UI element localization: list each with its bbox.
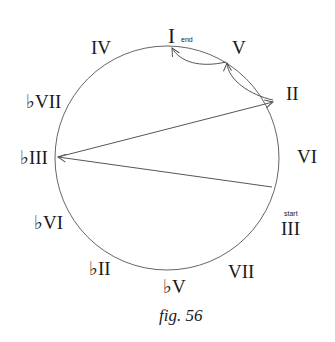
label-flatII: ♭II [89, 259, 111, 278]
label-flatVII: ♭VII [26, 92, 61, 111]
arrow-III-to-flatIII [58, 157, 272, 187]
arrow-flatIII-to-II [58, 102, 273, 157]
label-flatV: ♭V [163, 277, 186, 296]
key-circle [55, 46, 279, 270]
label-flatVI: ♭VI [34, 213, 63, 232]
annotation-start: start [284, 210, 298, 217]
label-I: I [168, 26, 175, 47]
label-III: III [281, 219, 300, 238]
annotation-end: end [181, 36, 193, 43]
label-II: II [286, 84, 299, 103]
label-V: V [232, 38, 246, 57]
figure-caption: fig. 56 [159, 306, 202, 326]
label-IV: IV [91, 38, 111, 57]
label-flatIII: ♭III [20, 148, 48, 167]
label-VI: VI [297, 147, 317, 166]
label-VII: VII [228, 262, 254, 281]
